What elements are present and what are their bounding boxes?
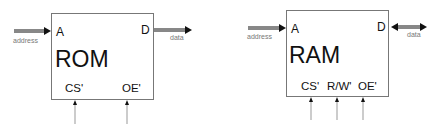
rom-oe-line <box>125 100 129 124</box>
ram-rw-line <box>335 97 339 120</box>
rom-oe-label: OE' <box>122 83 141 95</box>
ram-oe-line <box>361 97 365 120</box>
rom-cs-label: CS' <box>65 83 83 95</box>
ram-address-pin-label: A <box>291 23 299 35</box>
rom-address-label: address <box>13 37 38 44</box>
ram-cs-label: CS' <box>301 81 319 93</box>
ram-title: RAM <box>289 44 340 67</box>
ram-cs-line <box>309 97 313 120</box>
rom-title: ROM <box>55 48 109 71</box>
ram-address-label: address <box>247 33 272 40</box>
ram-data-label: data <box>407 31 421 38</box>
rom-address-pin-label: A <box>56 26 64 38</box>
rom-data-bus-arrow <box>154 26 192 34</box>
ram-data-bus-arrow <box>391 23 427 31</box>
ram-rw-label: R/W' <box>327 81 352 93</box>
rom-address-bus-arrow <box>14 27 51 35</box>
ram-oe-label: OE' <box>358 81 377 93</box>
rom-cs-line <box>73 100 77 124</box>
ram-data-pin-label: D <box>377 21 386 33</box>
rom-data-pin-label: D <box>141 24 150 36</box>
rom-data-label: data <box>170 34 184 41</box>
ram-address-bus-arrow <box>248 24 286 32</box>
